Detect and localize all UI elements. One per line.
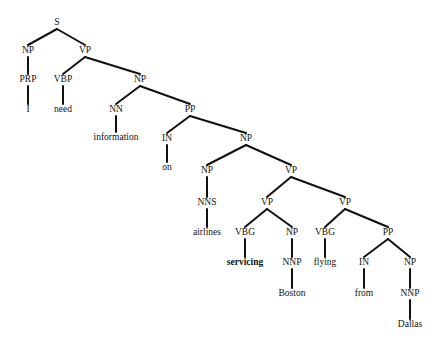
tree-node-tag: NNP xyxy=(282,257,301,267)
tree-edge xyxy=(57,29,85,45)
tree-edge xyxy=(325,209,345,227)
tree-node-tag: VBG xyxy=(315,227,335,237)
tree-edge xyxy=(388,239,410,257)
tree-leaf-word: servicing xyxy=(227,257,264,267)
tree-edge xyxy=(364,239,388,257)
tree-edge xyxy=(140,86,190,104)
tree-leaf-word: information xyxy=(94,132,139,142)
tree-edge xyxy=(246,145,291,165)
tree-edge xyxy=(85,57,140,74)
tree-node-tag: NP xyxy=(201,165,213,175)
tree-node-tag: VBG xyxy=(235,227,255,237)
tree-edge xyxy=(190,116,246,133)
tree-edges xyxy=(28,29,410,319)
tree-edge xyxy=(167,116,190,133)
tree-leaf-word: Dallas xyxy=(398,319,423,329)
tree-node-tag: PP xyxy=(383,227,394,237)
tree-node-tag: NP xyxy=(22,45,34,55)
tree-node-tag: VP xyxy=(285,165,297,175)
tree-leaf-word: flying xyxy=(314,257,337,267)
tree-node-tag: VP xyxy=(339,197,351,207)
tree-edge xyxy=(345,209,388,227)
tree-node-tag: S xyxy=(54,17,59,27)
tree-node-tag: PRP xyxy=(20,74,37,84)
tree-node-tag: NNS xyxy=(197,197,216,207)
tree-leaf-word: on xyxy=(162,162,172,172)
tree-edge xyxy=(63,57,85,74)
tree-node-tag: NP xyxy=(240,133,252,143)
tree-node-tag: PP xyxy=(185,104,196,114)
tree-node-tag: NP xyxy=(404,257,416,267)
tree-node-tag: IN xyxy=(359,257,369,267)
tree-node-tag: VBP xyxy=(54,74,72,84)
parse-tree-diagram: SNPVPPRPIVBPneedNPNNinformationPPINonNPN… xyxy=(0,0,441,344)
tree-leaf-word: I xyxy=(26,104,29,114)
tree-edge xyxy=(28,29,57,45)
tree-node-tag: VP xyxy=(261,197,273,207)
tree-node-tag: IN xyxy=(162,133,172,143)
tree-node-tag: NP xyxy=(134,74,146,84)
tree-edge xyxy=(267,177,291,197)
tree-node-tag: NN xyxy=(109,104,123,114)
tree-node-tag: VP xyxy=(79,45,91,55)
tree-edge xyxy=(116,86,140,104)
tree-edge xyxy=(291,177,345,197)
tree-leaf-word: Boston xyxy=(279,288,306,298)
tree-leaf-word: airlines xyxy=(193,227,221,237)
tree-node-tag: NP xyxy=(286,227,298,237)
tree-leaf-word: from xyxy=(355,288,374,298)
tree-node-labels: SNPVPPRPIVBPneedNPNNinformationPPINonNPN… xyxy=(20,17,423,329)
tree-edge xyxy=(207,145,246,165)
tree-edge xyxy=(245,209,267,227)
tree-node-tag: NNP xyxy=(400,288,419,298)
tree-leaf-word: need xyxy=(54,104,72,114)
tree-edge xyxy=(267,209,292,227)
